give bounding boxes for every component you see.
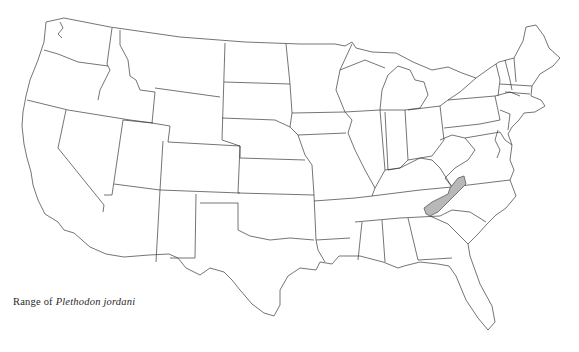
us-outline: [22, 18, 560, 330]
figure-caption: Range of Plethodon jordani: [13, 296, 135, 307]
caption-species: Plethodon jordani: [56, 296, 136, 307]
caption-prefix: Range of: [13, 296, 53, 307]
